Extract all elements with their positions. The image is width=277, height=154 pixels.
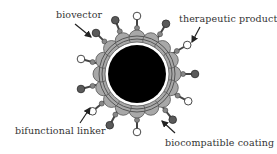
biovector-spike — [106, 109, 118, 129]
bifunctional-linker-arrow — [80, 108, 90, 123]
core-particle — [108, 45, 166, 103]
therapeutic-product-arrow — [192, 27, 200, 42]
diagram: biovector therapeutic product bifunction… — [0, 0, 277, 154]
biovector-spike — [157, 20, 170, 39]
therapeutic-spike — [172, 93, 192, 105]
label-biocompatible-coating: biocompatible coating — [165, 137, 274, 148]
biovector-arrow — [75, 24, 91, 37]
label-therapeutic-product: therapeutic product — [179, 13, 277, 24]
therapeutic-spike — [77, 55, 98, 64]
biovector-spike — [77, 83, 98, 92]
therapeutic-spike — [172, 41, 191, 54]
label-bifunctional-linker: bifunctional linker — [15, 125, 106, 136]
biovector-spike — [162, 106, 177, 124]
label-biovector: biovector — [56, 9, 102, 20]
